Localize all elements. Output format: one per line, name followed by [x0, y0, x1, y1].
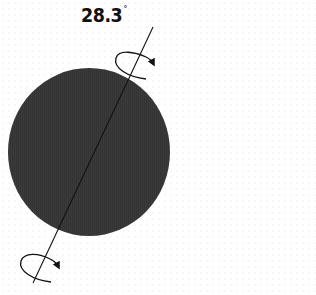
rotation-arrow-bottom-icon: [21, 254, 58, 282]
planet-diagram: [0, 0, 180, 295]
planet-sphere: [8, 68, 170, 236]
